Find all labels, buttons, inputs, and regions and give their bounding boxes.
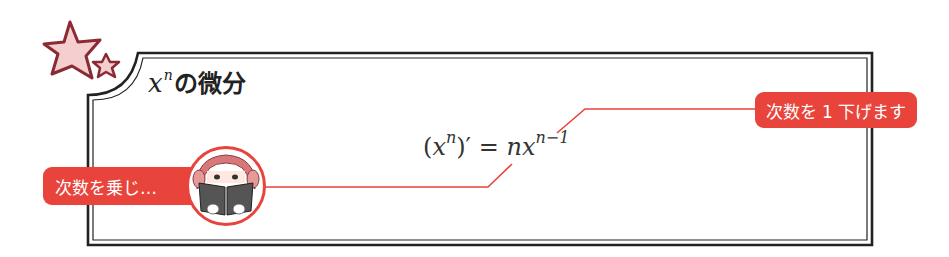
callout-right: 次数を 1 下げます	[755, 92, 917, 128]
frame-and-connectors	[0, 0, 949, 257]
formula-lhs-var: x	[432, 133, 446, 161]
formula-equals: =	[471, 133, 506, 161]
callout-left-label: 次数を乗じ…	[55, 174, 157, 199]
stars-icon	[44, 22, 119, 78]
derivative-formula: (xn)′ = nxn−1	[423, 133, 569, 161]
formula-paren-open: (	[423, 133, 432, 161]
connector-right	[557, 109, 755, 133]
avatar-illustration	[189, 149, 263, 223]
title-exponent: n	[164, 67, 173, 83]
formula-rhs-var: x	[522, 133, 536, 161]
formula-lhs-exp: n	[446, 128, 456, 147]
callout-left: 次数を乗じ…	[43, 167, 208, 205]
connector-left	[265, 164, 512, 187]
box-title: x n の微分	[148, 64, 246, 99]
title-text: の微分	[174, 64, 246, 99]
formula-paren-close-prime: )′	[456, 133, 471, 161]
title-variable: x	[148, 68, 163, 98]
callout-right-label: 次数を 1 下げます	[766, 98, 907, 123]
formula-rhs-exp: n−1	[535, 128, 569, 147]
formula-rhs-coef: n	[506, 133, 521, 161]
reading-girl-avatar-icon	[186, 146, 266, 226]
